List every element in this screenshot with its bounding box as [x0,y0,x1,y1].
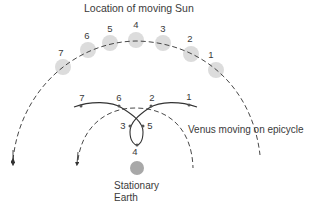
venus-label-1: 1 [186,92,191,102]
venus-label-5: 5 [147,121,152,131]
earth-label-line2: Earth [114,192,138,203]
venus-label-4: 4 [132,147,137,157]
sun-positions [55,32,224,78]
venus-epicycle-path [74,103,197,145]
earth-label-line1: Stationary [114,180,159,191]
sun-orbit-arc [13,41,260,160]
sun-label-5: 5 [107,24,112,34]
sun-label-7: 7 [58,48,63,58]
sun-label-6: 6 [84,31,89,41]
sun-label-3: 3 [160,24,165,34]
sun-position-6 [80,42,96,58]
venus-label: Venus moving on epicycle [188,124,304,135]
sun-label-1: 1 [208,50,213,60]
venus-label-2: 2 [149,93,154,103]
venus-label-7: 7 [79,93,84,103]
earth-icon [130,161,144,175]
venus-positions [80,104,191,147]
sun-label-2: 2 [187,34,192,44]
sun-label-4: 4 [133,20,138,30]
diagram-title: Location of moving Sun [84,3,194,14]
venus-label-6: 6 [116,93,121,103]
deferent-arc [78,108,193,168]
venus-label-3: 3 [120,121,125,131]
sun-position-4 [128,32,144,48]
epicycle-diagram [0,0,313,210]
sun-position-5 [102,35,118,51]
